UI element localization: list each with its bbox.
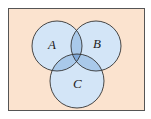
venn-diagram: A B C: [0, 0, 151, 119]
label-b: B: [93, 36, 101, 51]
label-a: A: [47, 37, 56, 52]
label-c: C: [73, 76, 82, 91]
